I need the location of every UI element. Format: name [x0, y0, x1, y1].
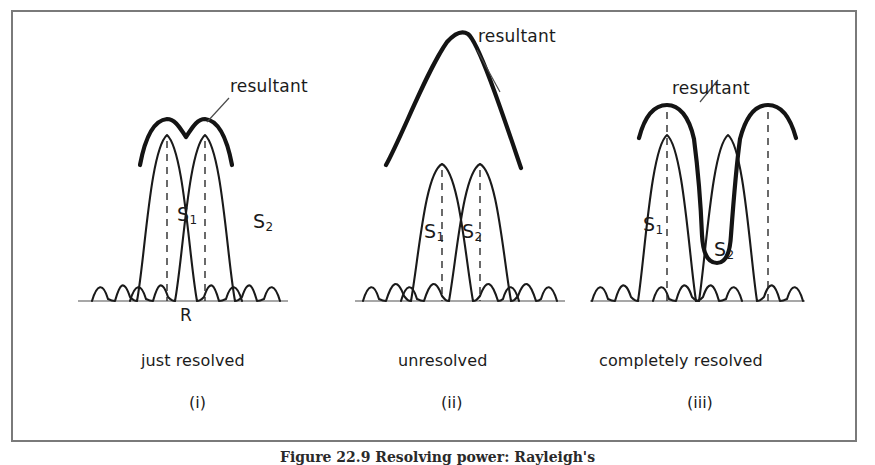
- panel-iii-curve-s2: [653, 135, 803, 301]
- panel-iii-label-s2-base: S: [714, 238, 726, 260]
- panel-i-resultant-leader: [207, 98, 229, 122]
- panel-ii-resultant-label: resultant: [478, 28, 556, 45]
- panel-ii-caption: unresolved: [398, 353, 487, 369]
- panel-ii-resultant-leader: [477, 50, 500, 92]
- panel-i-roman: (i): [189, 395, 206, 411]
- panel-iii-label-s2-sub: 2: [727, 248, 735, 262]
- panel-i-label-s1: S1: [177, 205, 197, 224]
- panel-ii-label-s1-sub: 1: [437, 230, 445, 244]
- panel-iii-label-s2: S2: [714, 240, 734, 259]
- panel-ii-label-s2-sub: 2: [475, 230, 483, 244]
- panel-iii-label-s1-sub: 1: [656, 223, 664, 237]
- panel-iii-roman: (iii): [687, 395, 713, 411]
- panel-ii-graphics: [355, 32, 565, 301]
- panel-iii-caption: completely resolved: [599, 353, 763, 369]
- panel-i-curve-resultant: [140, 119, 232, 165]
- panel-ii-curve-resultant: [386, 32, 521, 168]
- panel-i-label-s2-sub: 2: [266, 220, 274, 234]
- panel-iii-label-s1: S1: [643, 215, 663, 234]
- panel-i-resultant-label: resultant: [230, 78, 308, 95]
- panel-ii-label-s1-base: S: [424, 220, 436, 242]
- panel-iii-label-s1-base: S: [643, 213, 655, 235]
- panel-i-label-s2-base: S: [253, 210, 265, 232]
- panel-ii-label-s2: S2: [462, 222, 482, 241]
- figure-caption: Figure 22.9 Resolving power: Rayleigh's: [0, 449, 875, 465]
- panel-i-graphics: [78, 98, 288, 301]
- panel-i-label-s1-base: S: [177, 203, 189, 225]
- panel-i-label-s1-sub: 1: [190, 213, 198, 227]
- panel-i-label-s2: S2: [253, 212, 273, 231]
- panel-ii-label-s2-base: S: [462, 220, 474, 242]
- panel-iii-resultant-label: resultant: [672, 80, 750, 97]
- panel-i-label-r: R: [180, 307, 192, 324]
- panel-i-caption: just resolved: [141, 353, 245, 369]
- panel-ii-roman: (ii): [441, 395, 462, 411]
- panel-iii-graphics: [590, 80, 805, 301]
- panel-ii-label-s1: S1: [424, 222, 444, 241]
